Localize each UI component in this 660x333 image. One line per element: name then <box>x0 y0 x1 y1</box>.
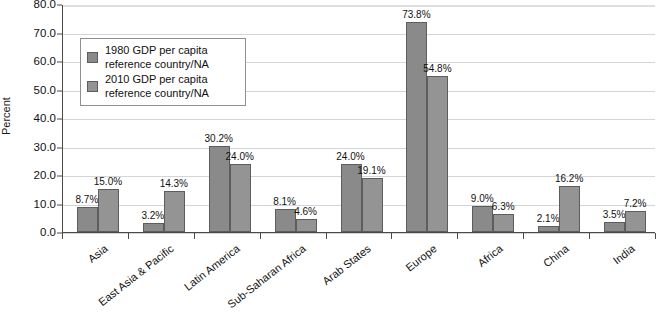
y-axis-tick-mark <box>57 90 62 91</box>
bar <box>427 76 448 232</box>
bar-group: 3.5%7.2% <box>600 5 646 232</box>
bar <box>559 186 580 232</box>
y-axis-tick-label: 50.0 <box>14 85 56 97</box>
bar-value-label: 54.8% <box>417 64 457 74</box>
bar-value-label: 16.2% <box>549 174 589 184</box>
x-axis-category-label-text: India <box>611 243 637 266</box>
x-axis-category-label-text: Europe <box>404 243 439 274</box>
bar <box>625 211 646 232</box>
bar <box>406 22 427 232</box>
y-axis-tick-label: 60.0 <box>14 56 56 68</box>
y-axis-tick-mark <box>57 176 62 177</box>
y-axis-tick-label: 30.0 <box>14 142 56 154</box>
y-axis-tick-mark <box>57 5 62 6</box>
y-axis-tick-label: 0.0 <box>14 227 56 239</box>
bar-value-label: 73.8% <box>396 10 436 20</box>
legend-item: 1980 GDP per capita reference country/NA <box>87 44 239 73</box>
legend-item: 2010 GDP per capita reference country/NA <box>87 73 239 102</box>
x-axis-category-label-text: Asia <box>86 243 110 265</box>
bar <box>604 222 625 232</box>
bar <box>164 191 185 232</box>
y-axis-tick-mark <box>57 119 62 120</box>
x-axis-category-label-text: Africa <box>476 243 505 269</box>
legend-swatch-2010-icon <box>87 81 98 92</box>
x-axis-category-label-text: Arab States <box>321 243 373 287</box>
bar-value-label: 30.2% <box>199 134 239 144</box>
chart-legend: 1980 GDP per capita reference country/NA… <box>80 38 246 106</box>
y-axis-tick-mark <box>57 233 62 234</box>
x-axis-tick-mark <box>62 233 63 239</box>
bar <box>296 219 317 232</box>
y-axis-tick-label: 20.0 <box>14 170 56 182</box>
bar-group: 9.0%6.3% <box>468 5 514 232</box>
y-axis-tick-label: 40.0 <box>14 113 56 125</box>
bar-value-label: 24.0% <box>220 152 260 162</box>
bar-value-label: 6.3% <box>483 202 523 212</box>
y-axis-tick-mark <box>57 33 62 34</box>
bar-chart: Percent 0.010.020.030.040.050.060.070.08… <box>0 0 660 333</box>
bar <box>143 223 164 232</box>
bar <box>538 226 559 232</box>
x-axis-category-label-text: Latin America <box>182 243 241 293</box>
bar-value-label: 24.0% <box>331 152 371 162</box>
bar <box>77 207 98 232</box>
x-axis-tick-mark <box>128 233 129 239</box>
bar-group: 2.1%16.2% <box>534 5 580 232</box>
x-axis-category-label-text: China <box>541 243 570 269</box>
y-axis-tick-mark <box>57 62 62 63</box>
bar <box>493 214 514 232</box>
bar-value-label: 14.3% <box>154 179 194 189</box>
legend-label: 1980 GDP per capita reference country/NA <box>105 44 209 71</box>
y-axis-tick-label: 80.0 <box>14 0 56 11</box>
bar-value-label: 19.1% <box>352 166 392 176</box>
y-axis-tick-labels: 0.010.020.030.040.050.060.070.080.0 <box>14 0 56 234</box>
y-axis-tick-label: 10.0 <box>14 199 56 211</box>
gridline <box>63 233 655 234</box>
bar <box>98 189 119 232</box>
bar-group: 73.8%54.8% <box>402 5 448 232</box>
y-axis-tick-label: 70.0 <box>14 28 56 40</box>
legend-label: 2010 GDP per capita reference country/NA <box>105 73 209 100</box>
bar-group: 8.1%4.6% <box>271 5 317 232</box>
bar-value-label: 7.2% <box>615 199 655 209</box>
y-axis-tick-mark <box>57 204 62 205</box>
y-axis-tick-mark <box>57 147 62 148</box>
legend-swatch-1980-icon <box>87 52 98 63</box>
bar-value-label: 15.0% <box>88 177 128 187</box>
